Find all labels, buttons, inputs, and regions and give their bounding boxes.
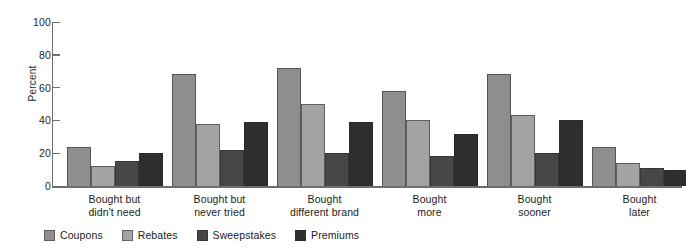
bar — [454, 134, 478, 186]
bar — [559, 120, 583, 186]
bar — [172, 74, 196, 186]
legend-swatch-icon — [295, 230, 306, 241]
bar — [196, 124, 220, 186]
bar — [487, 74, 511, 186]
legend-label: Rebates — [138, 229, 178, 241]
y-axis-tick-label: 40 — [39, 114, 51, 126]
legend: CouponsRebatesSweepstakesPremiums — [0, 229, 686, 241]
bar — [592, 147, 616, 186]
bar — [325, 153, 349, 186]
bar-group — [587, 22, 686, 186]
plot-area — [53, 22, 682, 186]
legend-swatch-icon — [122, 230, 133, 241]
bar-group — [167, 22, 272, 186]
bar — [244, 122, 268, 186]
y-axis-tick-label: 0 — [45, 180, 51, 192]
legend-item[interactable]: Rebates — [122, 229, 178, 241]
legend-item[interactable]: Sweepstakes — [197, 229, 277, 241]
bar — [139, 153, 163, 186]
bar — [220, 150, 244, 186]
y-axis-tick-label: 20 — [39, 147, 51, 159]
bar — [382, 91, 406, 186]
bar — [67, 147, 91, 186]
bar-group — [377, 22, 482, 186]
legend-item[interactable]: Premiums — [295, 229, 359, 241]
legend-label: Premiums — [311, 229, 359, 241]
bar — [406, 120, 430, 186]
bar — [535, 153, 559, 186]
legend-swatch-icon — [44, 230, 55, 241]
bar-chart: Percent 100806040200 Bought butdidn't ne… — [0, 0, 686, 252]
legend-label: Sweepstakes — [213, 229, 277, 241]
bar-group — [482, 22, 587, 186]
bar — [616, 163, 640, 186]
bar — [430, 156, 454, 186]
bar — [91, 166, 115, 186]
bar — [640, 168, 664, 186]
y-axis-tick-label: 60 — [39, 82, 51, 94]
bar — [511, 115, 535, 186]
legend-item[interactable]: Coupons — [44, 229, 103, 241]
bar — [301, 104, 325, 186]
y-axis-tick-label: 100 — [33, 16, 51, 28]
bar-group — [272, 22, 377, 186]
bar — [115, 161, 139, 186]
x-axis-line — [52, 186, 682, 188]
bar-group — [62, 22, 167, 186]
bar — [349, 122, 373, 186]
legend-label: Coupons — [60, 229, 103, 241]
legend-swatch-icon — [197, 230, 208, 241]
x-axis-category-label: Boughtlater — [577, 193, 686, 218]
y-axis-tick-label: 80 — [39, 49, 51, 61]
bar — [664, 170, 686, 186]
bar — [277, 68, 301, 186]
